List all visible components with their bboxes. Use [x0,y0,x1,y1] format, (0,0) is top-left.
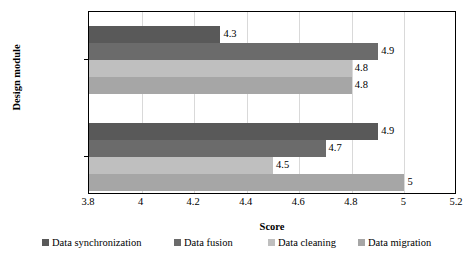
bar [89,123,378,140]
x-axis-tick-label: 4.2 [173,196,213,207]
bar-value-label: 4.3 [223,25,236,42]
bar-value-label: 4.8 [355,59,368,76]
x-axis-tick-label: 5.2 [436,196,476,207]
legend-item[interactable]: Data fusion [174,237,233,248]
bar [89,174,404,191]
gridline [352,12,353,193]
legend-swatch-icon [268,239,275,246]
x-axis-tick-label: 4 [121,196,161,207]
x-axis-tick-label: 4.6 [278,196,318,207]
legend-swatch-icon [358,239,365,246]
legend-item[interactable]: Data migration [358,237,431,248]
bar [89,77,352,94]
x-axis-title: Score [88,221,456,232]
bar-value-label: 4.7 [329,139,342,156]
x-axis-tick-label: 5 [383,196,423,207]
gridline [404,12,405,193]
plot-area [88,11,456,194]
bar-value-label: 4.9 [381,122,394,139]
x-axis-tick-label: 4.4 [226,196,266,207]
bar-value-label: 5 [407,173,412,190]
legend-label: Data migration [368,237,431,248]
x-axis-tick-label: 3.8 [68,196,108,207]
legend-swatch-icon [174,239,181,246]
bar [89,140,326,157]
gridline [299,12,300,193]
bar-value-label: 4.9 [381,42,394,59]
chart-legend: Data synchronizationData fusionData clea… [0,237,476,253]
bar [89,26,220,43]
bar-value-label: 4.5 [276,156,289,173]
legend-label: Data fusion [184,237,233,248]
bar-value-label: 4.8 [355,76,368,93]
bar [89,157,273,174]
bar-chart: Design module Soft landscape Hard landsc… [0,0,476,263]
legend-item[interactable]: Data cleaning [268,237,336,248]
bar [89,43,378,60]
legend-swatch-icon [42,239,49,246]
y-axis-labels: Soft landscape Hard landscape [0,0,88,205]
legend-label: Data synchronization [52,237,142,248]
x-axis-tick-label: 4.8 [331,196,371,207]
legend-label: Data cleaning [278,237,336,248]
bar [89,60,352,77]
legend-item[interactable]: Data synchronization [42,237,142,248]
